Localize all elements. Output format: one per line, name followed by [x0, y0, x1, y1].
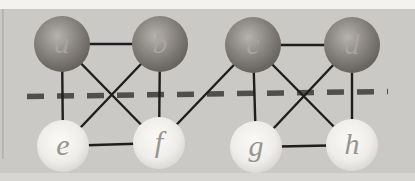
node-label-b: b	[153, 26, 168, 59]
top-scan-band	[0, 0, 415, 9]
node-label-d: d	[345, 27, 361, 60]
left-scan-edge	[2, 9, 4, 159]
node-label-a: a	[55, 26, 70, 59]
node-label-g: g	[249, 129, 264, 162]
graph-svg: abcdefgh	[0, 0, 415, 181]
graph-cut-figure: abcdefgh	[0, 0, 415, 181]
node-label-h: h	[345, 127, 360, 160]
bottom-scan-band	[0, 173, 415, 181]
node-label-e: e	[56, 128, 69, 161]
node-label-c: c	[246, 27, 259, 60]
